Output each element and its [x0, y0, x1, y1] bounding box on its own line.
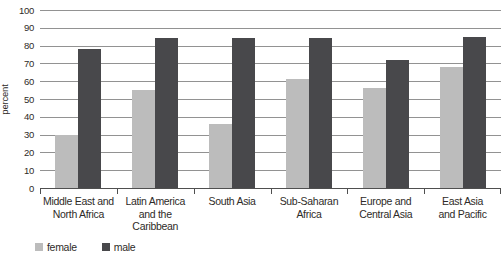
y-tick-label-40: 40 — [8, 112, 34, 121]
x-axis-tick-3 — [271, 189, 272, 194]
category-label-5: Europe andCentral Asia — [347, 195, 424, 220]
x-axis-tick-1 — [117, 189, 118, 194]
bar-chart: percent 0102030405060708090100Middle Eas… — [0, 0, 501, 259]
gridline-30 — [40, 135, 501, 136]
category-label-6: East Asiaand Pacific — [424, 195, 501, 220]
bar-male-6 — [463, 37, 486, 188]
x-axis-tick-4 — [347, 189, 348, 194]
bar-female-4 — [286, 79, 309, 188]
x-axis-tick-0 — [40, 189, 41, 194]
bar-male-2 — [155, 38, 178, 188]
gridline-80 — [40, 46, 501, 47]
gridline-20 — [40, 152, 501, 153]
legend-item-male: male — [102, 241, 136, 253]
legend-swatch-female — [35, 243, 43, 251]
gridline-60 — [40, 81, 501, 82]
y-tick-label-30: 30 — [8, 130, 34, 139]
legend-label-female: female — [47, 241, 77, 253]
gridline-10 — [40, 170, 501, 171]
gridline-90 — [40, 28, 501, 29]
category-label-3: South Asia — [194, 195, 271, 208]
bar-female-6 — [440, 67, 463, 188]
bar-male-4 — [309, 38, 332, 188]
y-tick-label-20: 20 — [8, 148, 34, 157]
gridline-40 — [40, 117, 501, 118]
category-label-1: Middle East andNorth Africa — [40, 195, 117, 220]
gridline-100 — [40, 10, 501, 11]
y-tick-label-10: 10 — [8, 166, 34, 175]
y-tick-label-0: 0 — [8, 184, 34, 193]
plot-area: 0102030405060708090100Middle East andNor… — [0, 0, 501, 259]
legend: female male — [35, 241, 135, 253]
y-tick-label-100: 100 — [8, 6, 34, 15]
y-tick-label-70: 70 — [8, 59, 34, 68]
y-tick-label-60: 60 — [8, 77, 34, 86]
bar-male-3 — [232, 38, 255, 188]
bar-female-1 — [55, 135, 78, 188]
y-tick-label-80: 80 — [8, 41, 34, 50]
bar-female-2 — [132, 90, 155, 188]
category-label-4: Sub-SaharanAfrica — [271, 195, 348, 220]
bar-male-5 — [386, 60, 409, 188]
legend-swatch-male — [102, 243, 110, 251]
gridline-70 — [40, 63, 501, 64]
bar-female-5 — [363, 88, 386, 188]
legend-item-female: female — [35, 241, 77, 253]
x-axis-tick-5 — [424, 189, 425, 194]
y-tick-label-50: 50 — [8, 95, 34, 104]
y-tick-label-90: 90 — [8, 23, 34, 32]
legend-label-male: male — [114, 241, 136, 253]
x-axis-tick-2 — [194, 189, 195, 194]
bar-female-3 — [209, 124, 232, 188]
bar-male-1 — [78, 49, 101, 188]
gridline-50 — [40, 99, 501, 100]
category-label-2: Latin Americaand theCaribbean — [117, 195, 194, 233]
